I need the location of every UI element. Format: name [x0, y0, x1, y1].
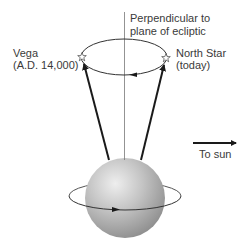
- north-star-label: North Star: [176, 47, 226, 59]
- precession-circle: [81, 39, 167, 75]
- axis-arrow-northstar: [141, 65, 164, 160]
- axis-label-line1: Perpendicular to: [130, 12, 210, 24]
- axis-arrow-vega: [84, 64, 109, 160]
- north-star-date-label: (today): [176, 59, 210, 71]
- vega-label: Vega: [13, 47, 38, 59]
- precession-arrow-icon: [129, 73, 137, 78]
- vega-star-icon: [78, 53, 87, 61]
- axis-label-line2: plane of ecliptic: [130, 25, 206, 37]
- vega-date-label: (A.D. 14,000): [13, 59, 78, 71]
- diagram-graphics: [0, 0, 248, 252]
- to-sun-label: To sun: [199, 148, 231, 160]
- precession-diagram: Perpendicular to plane of ecliptic Vega …: [0, 0, 248, 252]
- earth-sphere: [85, 158, 165, 238]
